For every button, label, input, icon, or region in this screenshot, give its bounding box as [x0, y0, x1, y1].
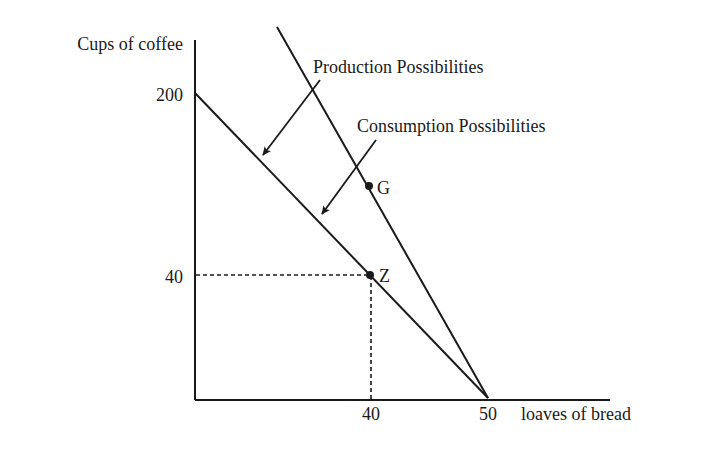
y-axis-label: Cups of coffee — [77, 34, 183, 54]
ppf-chart: Cups of coffee loaves of bread 200 40 40… — [0, 0, 709, 454]
production-possibilities-label: Production Possibilities — [313, 57, 484, 77]
point-z-marker — [366, 271, 374, 279]
production-arrow — [263, 80, 320, 155]
point-z-label: Z — [379, 266, 390, 286]
x-tick-40: 40 — [362, 404, 380, 424]
point-g-label: G — [377, 178, 390, 198]
x-axis-label: loaves of bread — [521, 404, 631, 424]
y-tick-40: 40 — [165, 267, 183, 287]
y-tick-200: 200 — [156, 85, 183, 105]
x-tick-50: 50 — [479, 404, 497, 424]
consumption-possibilities-label: Consumption Possibilities — [357, 116, 546, 136]
consumption-arrow — [322, 140, 376, 214]
point-g-marker — [365, 182, 373, 190]
